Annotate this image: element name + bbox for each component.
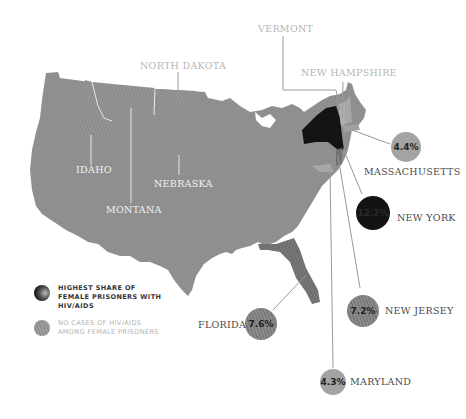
bubble-massachusetts: 4.4% (391, 132, 421, 162)
state-north-dakota (156, 89, 197, 116)
maryland-leader (330, 168, 333, 368)
new-york-leader (343, 148, 362, 194)
label-maryland: MARYLAND (350, 376, 411, 387)
label-nebraska: NEBRASKA (154, 178, 213, 189)
state-florida (258, 238, 320, 304)
florida-leader (273, 275, 306, 310)
hiv-map-figure: NORTH DAKOTA IDAHO MONTANA NEBRASKA VERM… (0, 0, 466, 419)
bubble-maryland: 4.3% (320, 369, 346, 395)
label-florida: FLORIDA (198, 319, 246, 330)
label-north-dakota: NORTH DAKOTA (140, 60, 226, 71)
label-idaho: IDAHO (76, 164, 112, 175)
bubble-new-york: 12.2% (356, 196, 390, 230)
label-new-jersey: NEW JERSEY (385, 305, 454, 316)
label-montana: MONTANA (106, 204, 162, 215)
legend-item-no-cases: NO CASES OF HIV/AIDS AMONG FEMALE PRISON… (34, 319, 168, 337)
label-new-hampshire: NEW HAMPSHIRE (301, 67, 397, 78)
label-vermont: VERMONT (258, 23, 313, 34)
massachusetts-leader (352, 130, 390, 144)
legend: HIGHEST SHARE OF FEMALE PRISONERS WITH H… (34, 284, 168, 345)
us-map (0, 0, 466, 419)
legend-item-highest: HIGHEST SHARE OF FEMALE PRISONERS WITH H… (34, 284, 168, 311)
bubble-new-jersey: 7.2% (347, 295, 379, 327)
hatched-circle-icon (34, 320, 50, 336)
new-jersey-leader (338, 156, 360, 288)
label-massachusetts: MASSACHUSETTS (364, 166, 461, 177)
bubble-florida: 7.6% (245, 308, 277, 340)
dark-circle-icon (34, 285, 50, 301)
label-new-york: NEW YORK (397, 212, 456, 223)
